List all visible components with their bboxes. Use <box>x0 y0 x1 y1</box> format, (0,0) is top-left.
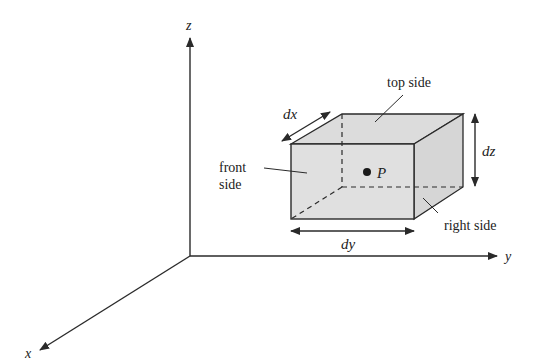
x-axis-label: x <box>24 346 32 361</box>
x-axis <box>40 256 190 350</box>
dx-label: dx <box>283 106 298 122</box>
front-side-label-line1: front <box>219 160 246 175</box>
front-side-label-line2: side <box>219 177 242 192</box>
y-axis-label: y <box>503 249 512 264</box>
point-p-marker <box>363 168 371 176</box>
dz-label: dz <box>482 143 496 159</box>
dy-label: dy <box>341 236 356 252</box>
top-side-label: top side <box>387 75 431 90</box>
point-p-label: P <box>376 165 386 181</box>
volume-element-diagram: z y x P dx dy dz top side front side rig… <box>0 0 544 362</box>
right-side-label: right side <box>444 218 497 233</box>
z-axis-label: z <box>185 18 192 33</box>
